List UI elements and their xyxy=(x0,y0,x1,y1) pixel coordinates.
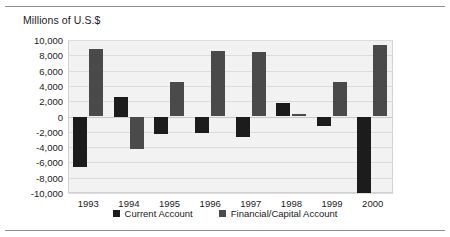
bar-series-layer xyxy=(68,40,393,193)
bar-current-account xyxy=(114,97,128,116)
legend-swatch-current-account xyxy=(113,210,120,217)
bar-group xyxy=(271,40,312,193)
bar-financial-capital-account xyxy=(292,114,306,116)
bar-financial-capital-account xyxy=(373,45,387,116)
bar-current-account xyxy=(195,117,209,134)
bar-financial-capital-account xyxy=(89,49,103,116)
plot-area: 10,0008,0006,0004,0002,0000-2,000-4,000-… xyxy=(68,40,393,193)
bar-current-account xyxy=(276,103,290,117)
bar-current-account xyxy=(357,117,371,194)
y-axis-title: Millions of U.S.$ xyxy=(23,14,101,26)
y-tick-label: 10,000 xyxy=(34,35,63,46)
legend-item: Financial/Capital Account xyxy=(219,208,338,219)
y-tick-label: 0 xyxy=(58,111,63,122)
legend-label: Current Account xyxy=(125,208,193,219)
figure-top-rule xyxy=(5,6,445,7)
bar-group xyxy=(109,40,150,193)
y-tick-label: 4,000 xyxy=(39,80,63,91)
y-tick-label: -8,000 xyxy=(36,172,63,183)
bar-group xyxy=(352,40,393,193)
legend-item: Current Account xyxy=(113,208,193,219)
bar-group xyxy=(149,40,190,193)
bar-financial-capital-account xyxy=(130,117,144,150)
y-tick-label: -6,000 xyxy=(36,157,63,168)
y-tick-label: 8,000 xyxy=(39,50,63,61)
bar-financial-capital-account xyxy=(252,52,266,116)
bar-financial-capital-account xyxy=(333,82,347,116)
y-tick-label: -10,000 xyxy=(31,188,63,199)
bar-group xyxy=(231,40,272,193)
bar-group xyxy=(190,40,231,193)
bar-group xyxy=(68,40,109,193)
y-tick-label: 6,000 xyxy=(39,65,63,76)
bar-current-account xyxy=(317,117,331,127)
y-tick-label: -2,000 xyxy=(36,126,63,137)
y-tick-label: -4,000 xyxy=(36,142,63,153)
legend-swatch-financial-capital-account xyxy=(219,210,226,217)
bar-financial-capital-account xyxy=(211,51,225,116)
legend-label: Financial/Capital Account xyxy=(231,208,338,219)
bar-current-account xyxy=(154,117,168,135)
y-tick-label: 2,000 xyxy=(39,96,63,107)
bar-financial-capital-account xyxy=(170,82,184,116)
bar-current-account xyxy=(236,117,250,138)
chart-legend: Current AccountFinancial/Capital Account xyxy=(0,208,450,219)
gridline xyxy=(68,193,393,194)
bar-group xyxy=(312,40,353,193)
bar-current-account xyxy=(73,117,87,167)
figure-container: Millions of U.S.$ 10,0008,0006,0004,0002… xyxy=(0,0,450,237)
figure-bottom-rule xyxy=(5,230,445,231)
